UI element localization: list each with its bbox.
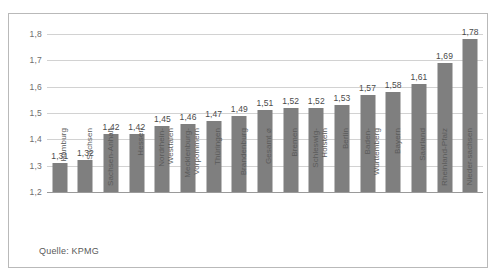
bar-value-label: 1,61 (410, 72, 427, 82)
y-axis-tick-label: 1,2 (30, 187, 42, 197)
category-label: Gesamt ⌀ (264, 128, 273, 196)
category-label: Sachsen-Anhalt (106, 128, 115, 196)
category-label-wrap: Nordrhein-Westfalen (150, 196, 176, 264)
bar-value-label: 1,46 (180, 112, 197, 122)
bar-group[interactable]: 1,45Nordrhein-Westfalen (150, 34, 176, 192)
category-label-wrap: Saarland (406, 196, 432, 264)
y-axis-tick-label: 1,3 (30, 161, 42, 171)
category-label: Mecklenburg-Vorpommern (183, 128, 201, 196)
bar-group[interactable]: 1,52Schleswig-Holstein (303, 34, 329, 192)
bar-value-label: 1,49 (231, 104, 248, 114)
category-label-wrap: Mecklenburg-Vorpommern (175, 196, 201, 264)
category-label-wrap: Bremen (278, 196, 304, 264)
category-label: Sachsen (85, 128, 94, 196)
clipped-header-text (150, 0, 350, 4)
bar-value-label: 1,69 (436, 51, 453, 61)
bar-value-label: 1,57 (359, 83, 376, 93)
bar-value-label: 1,53 (333, 93, 350, 103)
bar-group[interactable]: 1,46Mecklenburg-Vorpommern (175, 34, 201, 192)
bar-value-label: 1,47 (205, 109, 222, 119)
bar-value-label: 1,52 (282, 96, 299, 106)
category-label-wrap: Thüringen (201, 196, 227, 264)
category-label-wrap: Sachsen-Anhalt (98, 196, 124, 264)
bar-group[interactable]: 1,49Brandenburg (227, 34, 253, 192)
category-label-wrap: Baden-Württemberg (355, 196, 381, 264)
bar-value-label: 1,45 (154, 114, 171, 124)
category-label-wrap: Berlin (329, 196, 355, 264)
category-label: Bayern (393, 128, 402, 196)
bar-value-label: 1,78 (462, 27, 479, 37)
category-label-wrap: Schleswig-Holstein (303, 196, 329, 264)
category-label-wrap: Rheinland-Pfalz (432, 196, 458, 264)
bar-group[interactable]: 1,58Bayern (380, 34, 406, 192)
bar-group[interactable]: 1,51Gesamt ⌀ (252, 34, 278, 192)
category-label: Schleswig-Holstein (311, 128, 329, 196)
plot-area: 1,21,31,41,51,61,71,8 1,31Hamburg1,32Sac… (47, 34, 483, 192)
category-label-wrap: Bayern (380, 196, 406, 264)
bar-group[interactable]: 1,32Sachsen (73, 34, 99, 192)
category-label: Berlin (341, 128, 350, 196)
bar-group[interactable]: 1,78Nieder-sachsen (457, 34, 483, 192)
category-label: Baden-Württemberg (363, 128, 381, 196)
category-label: Saarland (418, 128, 427, 196)
category-label: Thüringen (213, 128, 222, 196)
category-label: Hessen (136, 128, 145, 196)
y-axis-tick-label: 1,5 (30, 108, 42, 118)
bar-series: 1,31Hamburg1,32Sachsen1,42Sachsen-Anhalt… (47, 34, 483, 192)
bar-value-label: 1,52 (308, 96, 325, 106)
y-axis-tick-label: 1,4 (30, 134, 42, 144)
bar-group[interactable]: 1,57Baden-Württemberg (355, 34, 381, 192)
source-note: Quelle: KPMG (39, 246, 99, 256)
bar-group[interactable]: 1,61Saarland (406, 34, 432, 192)
chart-figure: 1,21,31,41,51,61,71,8 1,31Hamburg1,32Sac… (0, 0, 494, 277)
category-label: Nordrhein-Westfalen (157, 128, 175, 196)
bar-group[interactable]: 1,47Thüringen (201, 34, 227, 192)
chart-frame: 1,21,31,41,51,61,71,8 1,31Hamburg1,32Sac… (8, 13, 488, 268)
bar-group[interactable]: 1,31Hamburg (47, 34, 73, 192)
category-label-wrap: Gesamt ⌀ (252, 196, 278, 264)
bar-group[interactable]: 1,69Rheinland-Pfalz (432, 34, 458, 192)
y-axis-tick-label: 1,6 (30, 82, 42, 92)
category-label-wrap: Nieder-sachsen (457, 196, 483, 264)
category-label: Bremen (290, 128, 299, 196)
bar-group[interactable]: 1,42Sachsen-Anhalt (98, 34, 124, 192)
category-label-wrap: Brandenburg (227, 196, 253, 264)
category-label-wrap: Hessen (124, 196, 150, 264)
bar-group[interactable]: 1,53Berlin (329, 34, 355, 192)
y-axis-tick-label: 1,7 (30, 55, 42, 65)
bar-group[interactable]: 1,42Hessen (124, 34, 150, 192)
bar-value-label: 1,51 (257, 98, 274, 108)
category-label: Hamburg (59, 128, 68, 196)
y-axis-tick-label: 1,8 (30, 29, 42, 39)
category-label: Brandenburg (239, 128, 248, 196)
category-label: Rheinland-Pfalz (440, 128, 449, 196)
bar-value-label: 1,58 (385, 80, 402, 90)
bar-group[interactable]: 1,52Bremen (278, 34, 304, 192)
category-label: Nieder-sachsen (465, 128, 474, 196)
